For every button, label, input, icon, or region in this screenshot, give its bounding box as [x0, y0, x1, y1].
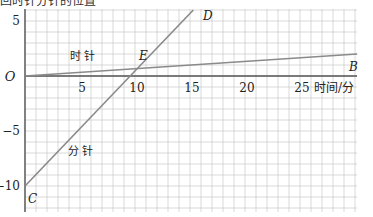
y-tick-label: −5	[2, 124, 20, 138]
point-label-b: B	[348, 60, 358, 74]
point-label-c: C	[28, 192, 37, 206]
point-label-d: D	[202, 9, 213, 23]
time-hands-chart: 5101520255−5−10O时间/分时 针分 针BCDE	[0, 0, 373, 217]
minute-hand-label: 分 针	[68, 144, 94, 158]
y-tick-label: 5	[12, 14, 20, 28]
point-label-e: E	[138, 49, 148, 63]
x-axis-label: 时间/分	[314, 81, 354, 95]
x-tick-label: 25	[294, 81, 309, 95]
x-tick-label: 10	[129, 81, 144, 95]
y-tick-label: −10	[0, 179, 20, 193]
origin-label: O	[5, 69, 16, 84]
hour-hand-label: 时 针	[70, 49, 96, 63]
x-tick-label: 15	[184, 81, 199, 95]
x-tick-label: 5	[78, 81, 86, 95]
x-tick-label: 20	[239, 81, 254, 95]
